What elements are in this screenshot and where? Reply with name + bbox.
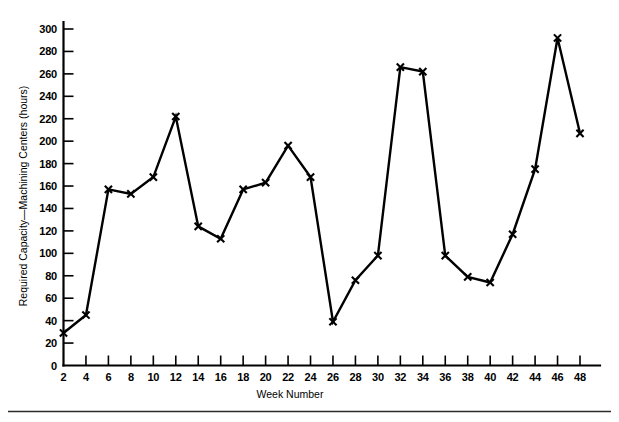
y-tick-label: 40 xyxy=(45,315,57,327)
x-tick-label: 4 xyxy=(83,371,90,383)
line-chart: Required Capacity—Machining Centers (hou… xyxy=(0,0,619,422)
x-tick-label: 44 xyxy=(529,371,542,383)
x-tick-label: 32 xyxy=(394,371,406,383)
data-point-marker xyxy=(284,142,291,149)
y-tick-label: 100 xyxy=(39,247,57,259)
y-tick-label: 280 xyxy=(39,45,57,57)
y-tick-label: 80 xyxy=(45,270,57,282)
x-tick-label: 26 xyxy=(327,371,339,383)
x-tick-label: 40 xyxy=(484,371,496,383)
y-tick-label: 200 xyxy=(39,135,57,147)
data-markers xyxy=(60,34,584,336)
x-tick-label: 8 xyxy=(128,371,134,383)
series-line-required-capacity xyxy=(64,38,581,333)
x-tick-label: 2 xyxy=(61,371,67,383)
x-tick-label: 18 xyxy=(237,371,249,383)
x-tick-label: 24 xyxy=(305,371,318,383)
x-axis-ticks: 2468101214161820222426283032343638404244… xyxy=(61,356,586,384)
y-tick-label: 0 xyxy=(51,360,57,372)
x-tick-label: 42 xyxy=(507,371,519,383)
x-tick-label: 28 xyxy=(350,371,362,383)
x-tick-label: 34 xyxy=(417,371,430,383)
y-axis-title: Required Capacity—Machining Centers (hou… xyxy=(17,86,29,307)
y-tick-label: 220 xyxy=(39,113,57,125)
y-tick-label: 260 xyxy=(39,68,57,80)
y-tick-label: 240 xyxy=(39,90,57,102)
x-tick-label: 6 xyxy=(105,371,111,383)
y-tick-label: 60 xyxy=(45,292,57,304)
y-tick-label: 20 xyxy=(45,337,57,349)
y-tick-label: 160 xyxy=(39,180,57,192)
y-tick-label: 140 xyxy=(39,202,57,214)
x-tick-label: 12 xyxy=(170,371,182,383)
x-tick-label: 22 xyxy=(282,371,294,383)
x-axis-title: Week Number xyxy=(257,388,324,400)
x-tick-label: 36 xyxy=(439,371,451,383)
x-tick-label: 10 xyxy=(147,371,159,383)
y-tick-label: 180 xyxy=(39,158,57,170)
data-series xyxy=(64,38,581,333)
y-axis-ticks: 0204060801001201401601802002202402602803… xyxy=(39,23,73,372)
x-tick-label: 30 xyxy=(372,371,384,383)
chart-figure: Required Capacity—Machining Centers (hou… xyxy=(0,0,619,422)
y-tick-label: 120 xyxy=(39,225,57,237)
x-tick-label: 38 xyxy=(462,371,474,383)
x-tick-label: 16 xyxy=(215,371,227,383)
x-tick-label: 14 xyxy=(192,371,205,383)
y-tick-label: 300 xyxy=(39,23,57,35)
x-tick-label: 46 xyxy=(552,371,564,383)
x-tick-label: 48 xyxy=(574,371,586,383)
x-tick-label: 20 xyxy=(260,371,272,383)
